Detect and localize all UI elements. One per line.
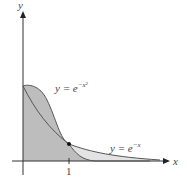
curve2-label-exponent: −x — [133, 141, 141, 149]
curve1-label: y = e−x² — [55, 82, 88, 94]
curve1-label-base: y = e — [55, 82, 78, 94]
y-axis-arrow-icon — [20, 11, 26, 18]
x-axis-arrow-icon — [163, 158, 170, 164]
plot — [0, 0, 188, 191]
tick-label-1: 1 — [66, 166, 72, 177]
curve2-label: y = e−x — [110, 142, 141, 154]
y-axis-label: y — [18, 0, 23, 11]
figure: y x 1 y = e−x² y = e−x — [0, 0, 188, 191]
intersection-point — [67, 142, 71, 146]
curve1-label-exponent: −x² — [78, 81, 88, 89]
curve2-label-base: y = e — [110, 142, 133, 154]
x-axis-label: x — [173, 156, 178, 167]
